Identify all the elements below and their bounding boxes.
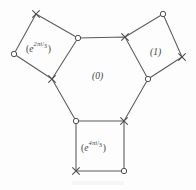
vertex-marker-circle	[11, 51, 16, 56]
label-denominator: 3	[44, 42, 47, 49]
region-label-bottom-square: (e4πi/3)	[81, 142, 106, 154]
label-denominator: 3	[99, 141, 102, 148]
vertex-marker-circle	[145, 76, 150, 81]
vertex-marker-cross	[179, 54, 186, 61]
label-numerator: 2πi	[34, 40, 42, 47]
region-label-topleft-square: (e2πi/3)	[26, 43, 51, 55]
vertex-marker-circle	[121, 168, 126, 173]
vertex-marker-cross	[49, 76, 56, 83]
vertex-marker-circle	[160, 11, 165, 16]
region-label-center-hexagon: (0)	[92, 72, 103, 82]
vertex-marker-circle	[73, 118, 78, 123]
vertex-marker-cross	[33, 11, 40, 18]
vertex-marker-circle	[75, 35, 80, 40]
caption-artifact	[72, 181, 124, 185]
region-label-right-square: (1)	[150, 48, 161, 58]
figure-container: (e2πi/3) (1) (0) (e4πi/3)	[0, 0, 196, 190]
label-exponent: 4πi/3	[89, 140, 103, 147]
label-numerator: 4πi	[89, 139, 97, 146]
label-exponent: 2πi/3	[34, 41, 48, 48]
diagram-canvas	[0, 0, 196, 190]
label-close-paren: )	[48, 44, 51, 54]
label-close-paren: )	[103, 143, 106, 153]
